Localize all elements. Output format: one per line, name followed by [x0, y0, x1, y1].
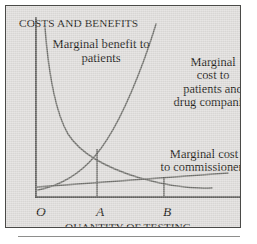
- x-tick-label-b: B: [163, 204, 171, 220]
- bottom-divider: [18, 236, 240, 237]
- label-marginal-cost-commissioners: Marginal cost to commissioners: [147, 148, 241, 175]
- x-tick-label-origin: O: [36, 204, 46, 220]
- label-marginal-cost-patients-drug-companies: Marginal cost to patients and drug compa…: [166, 56, 241, 110]
- y-axis-title: COSTS AND BENEFITS: [19, 17, 138, 29]
- label-marginal-benefit: Marginal benefit to patients: [42, 38, 160, 65]
- figure-plate: COSTS AND BENEFITS Marginal benefit to p…: [5, 5, 241, 228]
- x-axis-title: QUANTITY OF TESTING: [28, 221, 228, 228]
- figure-root: COSTS AND BENEFITS Marginal benefit to p…: [0, 0, 257, 244]
- x-tick-label-a: A: [96, 204, 104, 220]
